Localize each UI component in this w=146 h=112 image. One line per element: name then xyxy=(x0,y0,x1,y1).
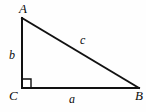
right-triangle-figure: A C B a b c xyxy=(0,0,146,112)
side-label-b: b xyxy=(9,49,15,61)
side-label-c: c xyxy=(80,34,85,46)
vertex-label-b: B xyxy=(135,89,143,102)
vertex-label-c: C xyxy=(9,89,18,102)
vertex-label-a: A xyxy=(19,2,27,15)
side-label-a: a xyxy=(69,93,75,105)
